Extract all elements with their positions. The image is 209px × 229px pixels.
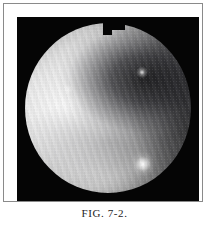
field-of-view-notch-step bbox=[103, 21, 112, 35]
photograph bbox=[17, 17, 199, 201]
tissue-striations bbox=[25, 23, 191, 193]
figure-frame bbox=[3, 3, 203, 202]
photo-grain bbox=[25, 23, 191, 193]
figure-caption: FIG. 7-2. bbox=[0, 207, 209, 219]
figure-plate: FIG. 7-2. bbox=[0, 0, 209, 229]
endoscopic-field-of-view bbox=[25, 23, 191, 193]
